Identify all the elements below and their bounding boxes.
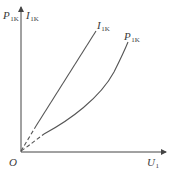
x-axis-label-u1: U1 — [147, 157, 159, 170]
curve-label-p1k: P1K — [124, 31, 140, 44]
y-axis-label-p1k-main: P — [3, 9, 10, 21]
p1k-curve-dashed — [21, 134, 44, 151]
i1k-curve-solid — [36, 31, 96, 126]
y-axis-label-i1k-sub: 1K — [30, 15, 39, 23]
i1k-curve-dashed — [21, 126, 36, 151]
curve-label-i1k: I1K — [97, 20, 110, 33]
diagram-canvas — [0, 0, 176, 170]
curve-label-p1k-sub: 1K — [131, 36, 140, 44]
curve-label-p1k-main: P — [124, 30, 131, 42]
y-axis-label-i1k: I1K — [26, 10, 39, 23]
p1k-curve-solid — [44, 42, 128, 134]
origin-label: O — [9, 157, 17, 168]
x-axis-label-u1-sub: 1 — [155, 162, 159, 170]
y-axis-label-p1k: P1K — [3, 10, 19, 23]
curve-label-i1k-sub: 1K — [101, 25, 110, 33]
y-axis-label-p1k-sub: 1K — [10, 15, 19, 23]
origin-label-text: O — [9, 156, 17, 168]
x-axis-label-u1-main: U — [147, 156, 155, 168]
